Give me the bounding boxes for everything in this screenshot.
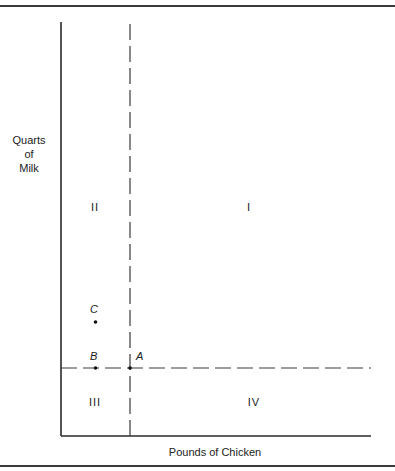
point-a: [128, 366, 132, 370]
point-label-a: A: [136, 350, 143, 362]
y-axis-label-line-1: Quarts: [8, 133, 50, 147]
indifference-quadrant-diagram: [0, 0, 395, 471]
quadrant-label-iii: III: [89, 396, 101, 408]
x-axis-label: Pounds of Chicken: [130, 445, 300, 459]
point-label-c: C: [90, 303, 98, 315]
quadrant-label-iv: IV: [248, 396, 260, 408]
y-axis-label-line-2: of: [8, 147, 50, 161]
point-b: [94, 366, 98, 370]
quadrant-label-i: I: [247, 201, 251, 213]
quadrant-label-ii: II: [91, 201, 99, 213]
y-axis-label-line-3: Milk: [8, 161, 50, 175]
point-c: [94, 320, 98, 324]
y-axis-label: Quarts of Milk: [8, 133, 50, 175]
point-label-b: B: [90, 350, 97, 362]
